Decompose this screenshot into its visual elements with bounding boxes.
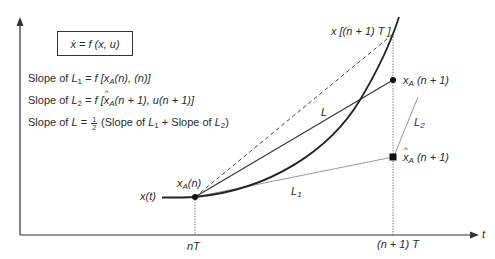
label-L2: L2 (414, 117, 425, 130)
slope-L2-definition: Slope of L2 = f [xA(n + 1), u(n + 1)] (28, 94, 194, 108)
point-xhatA-n1 (390, 154, 397, 161)
tick-label-nT: nT (187, 241, 200, 252)
curve-label: x(t) (140, 191, 156, 202)
point-label-xhatA-next: xA (n + 1) (403, 152, 449, 165)
line-L (195, 80, 393, 197)
x-axis-label: t (482, 229, 485, 240)
slope-L-definition: Slope of L = 12 (Slope of L1 + Slope of … (28, 116, 229, 131)
point-label-x-true-next: x [(n + 1) T ] (331, 26, 391, 37)
y-axis-arrow-icon (17, 17, 24, 26)
point-xA-n1 (390, 77, 396, 83)
tick-label-n1T: (n + 1) T (377, 239, 419, 250)
slope-L1-definition: Slope of L1 = f [xA(n), (n)] (28, 72, 151, 86)
x-axis-arrow-icon (470, 232, 479, 239)
label-L: L (321, 107, 327, 118)
equation-box: ẋ = f (x, u) (57, 31, 133, 56)
equation-text: ẋ = f (x, u) (70, 38, 119, 50)
curve-x-t (162, 17, 399, 198)
point-xA-n (192, 194, 198, 200)
point-label-xA-next: xA (n + 1) (403, 75, 449, 88)
point-label-xA-n: xA(n) (177, 178, 201, 191)
label-L1: L1 (291, 186, 302, 199)
one-half-fraction: 12 (91, 116, 97, 131)
